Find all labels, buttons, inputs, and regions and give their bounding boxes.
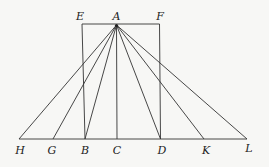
- diagram-canvas: E A F H G B C D K L: [0, 0, 269, 167]
- segment-AB: [85, 25, 117, 139]
- label-F: F: [155, 10, 164, 23]
- label-D: D: [157, 144, 167, 157]
- segment-AL: [117, 25, 248, 139]
- geometry-diagram: E A F H G B C D K L: [0, 0, 269, 167]
- label-A: A: [112, 10, 121, 23]
- label-C: C: [113, 144, 122, 157]
- segment-AD: [117, 25, 161, 139]
- label-H: H: [14, 144, 25, 157]
- label-E: E: [75, 10, 84, 23]
- label-K: K: [201, 144, 211, 157]
- segment-AH: [19, 25, 117, 139]
- label-B: B: [80, 144, 89, 157]
- label-G: G: [48, 144, 57, 157]
- segment-AC: [117, 25, 118, 139]
- label-L: L: [244, 142, 252, 155]
- apex-point-A: [115, 24, 118, 27]
